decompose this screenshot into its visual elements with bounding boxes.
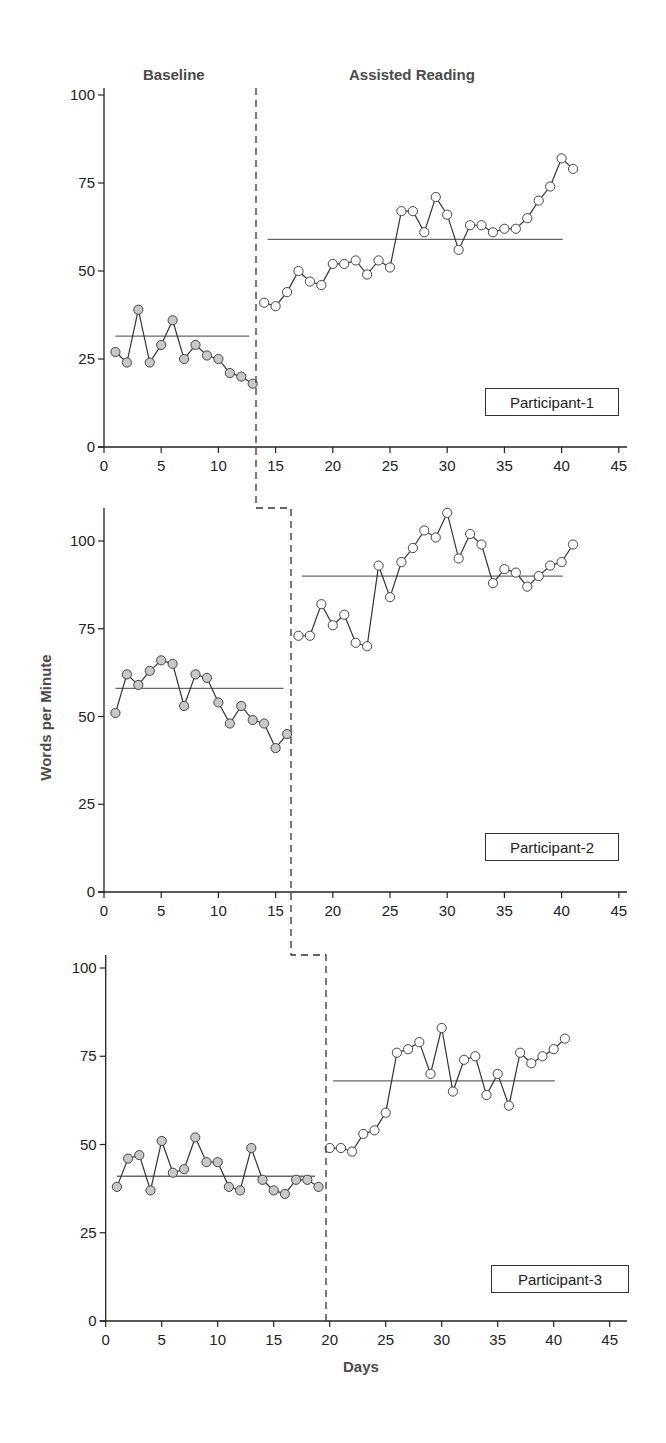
x-tick-label: 10 — [209, 1331, 226, 1348]
treatment-point — [511, 224, 520, 233]
treatment-point — [557, 154, 566, 163]
x-tick-label: 45 — [601, 1331, 618, 1348]
treatment-point — [504, 1101, 513, 1110]
baseline-point — [122, 670, 131, 679]
baseline-point — [269, 1186, 278, 1195]
multiple-baseline-chart: 0255075100051015202530354045025507510005… — [0, 0, 666, 1443]
treatment-point — [385, 593, 394, 602]
baseline-point — [168, 659, 177, 668]
treatment-point — [546, 561, 555, 570]
x-tick-label: 30 — [439, 902, 456, 919]
x-tick-label: 15 — [265, 1331, 282, 1348]
y-tick-label: 25 — [80, 1224, 97, 1241]
treatment-point — [465, 529, 474, 538]
y-tick-label: 100 — [70, 86, 95, 103]
treatment-point — [420, 526, 429, 535]
baseline-point — [225, 368, 234, 377]
treatment-point — [340, 610, 349, 619]
baseline-point — [213, 1158, 222, 1167]
baseline-point — [237, 372, 246, 381]
baseline-point — [280, 1189, 289, 1198]
treatment-point — [420, 228, 429, 237]
baseline-point — [157, 656, 166, 665]
treatment-point — [500, 564, 509, 573]
baseline-point — [271, 743, 280, 752]
treatment-point — [328, 621, 337, 630]
treatment-point — [305, 277, 314, 286]
x-tick-label: 20 — [324, 457, 341, 474]
treatment-point — [282, 288, 291, 297]
baseline-point — [282, 729, 291, 738]
treatment-point — [385, 263, 394, 272]
treatment-point — [348, 1147, 357, 1156]
x-tick-label: 20 — [321, 1331, 338, 1348]
treatment-point — [460, 1055, 469, 1064]
x-tick-label: 25 — [382, 902, 399, 919]
x-tick-label: 15 — [267, 457, 284, 474]
treatment-point — [328, 259, 337, 268]
treatment-point — [374, 561, 383, 570]
participant-1-legend: Participant-1 — [485, 388, 619, 416]
treatment-point — [340, 259, 349, 268]
baseline-point — [248, 715, 257, 724]
treatment-point — [549, 1045, 558, 1054]
baseline-point — [168, 1168, 177, 1177]
x-tick-label: 40 — [553, 457, 570, 474]
treatment-point — [351, 256, 360, 265]
treatment-point — [454, 245, 463, 254]
x-tick-label: 35 — [496, 902, 513, 919]
baseline-point — [202, 673, 211, 682]
x-tick-label: 25 — [382, 457, 399, 474]
baseline-line — [115, 660, 287, 748]
treatment-point — [477, 221, 486, 230]
treatment-point — [336, 1143, 345, 1152]
baseline-point — [112, 1182, 121, 1191]
y-tick-label: 50 — [80, 1136, 97, 1153]
treatment-point — [363, 270, 372, 279]
baseline-point — [111, 347, 120, 356]
treatment-point — [374, 256, 383, 265]
y-tick-label: 50 — [78, 708, 95, 725]
baseline-point — [179, 354, 188, 363]
treatment-point — [534, 196, 543, 205]
baseline-point — [225, 719, 234, 728]
baseline-point — [191, 1133, 200, 1142]
x-tick-label: 35 — [496, 457, 513, 474]
baseline-point — [180, 1165, 189, 1174]
treatment-point — [538, 1052, 547, 1061]
baseline-point — [134, 680, 143, 689]
participant-2-legend: Participant-2 — [485, 833, 619, 861]
treatment-point — [415, 1038, 424, 1047]
y-tick-label: 0 — [88, 1312, 96, 1329]
baseline-point — [191, 340, 200, 349]
treatment-point — [534, 572, 543, 581]
x-tick-label: 40 — [553, 902, 570, 919]
treatment-point — [317, 600, 326, 609]
baseline-point — [191, 670, 200, 679]
treatment-point — [317, 280, 326, 289]
treatment-point — [471, 1052, 480, 1061]
baseline-point — [224, 1182, 233, 1191]
y-tick-label: 0 — [87, 883, 95, 900]
baseline-point — [303, 1175, 312, 1184]
x-tick-label: 40 — [545, 1331, 562, 1348]
x-tick-label: 45 — [610, 902, 627, 919]
baseline-point — [157, 340, 166, 349]
y-tick-label: 25 — [78, 795, 95, 812]
baseline-point — [292, 1175, 301, 1184]
baseline-point — [214, 698, 223, 707]
x-tick-label: 30 — [433, 1331, 450, 1348]
treatment-point — [568, 540, 577, 549]
treatment-point — [294, 266, 303, 275]
baseline-point — [247, 1143, 256, 1152]
x-tick-label: 15 — [267, 902, 284, 919]
treatment-point — [370, 1126, 379, 1135]
baseline-point — [202, 351, 211, 360]
x-tick-label: 10 — [210, 457, 227, 474]
y-tick-label: 0 — [87, 438, 95, 455]
treatment-point — [351, 638, 360, 647]
x-tick-label: 5 — [157, 902, 165, 919]
treatment-point — [437, 1023, 446, 1032]
treatment-point — [294, 631, 303, 640]
treatment-point — [404, 1045, 413, 1054]
